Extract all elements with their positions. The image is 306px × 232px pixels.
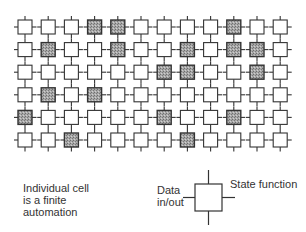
- grid-cell-active: [157, 110, 171, 124]
- grid-cell: [157, 43, 171, 57]
- grid-cell: [134, 65, 148, 79]
- grid-cell: [41, 133, 55, 147]
- grid-cell: [111, 133, 125, 147]
- grid-cell: [204, 133, 218, 147]
- grid-cell: [18, 88, 32, 102]
- grid-cell: [18, 43, 32, 57]
- caption-line-3: automation: [23, 206, 89, 218]
- grid-cell-active: [111, 20, 125, 34]
- grid-cell-active: [41, 88, 55, 102]
- grid-cell: [250, 110, 264, 124]
- grid-cell: [157, 88, 171, 102]
- grid-cell: [250, 88, 264, 102]
- grid-cell: [88, 65, 102, 79]
- grid-cell-active: [41, 43, 55, 57]
- grid-cell: [273, 88, 287, 102]
- label-state-function: State function: [230, 178, 297, 190]
- grid-cell: [204, 88, 218, 102]
- grid-cell: [273, 65, 287, 79]
- grid-cell-active: [250, 43, 264, 57]
- grid-cell: [111, 88, 125, 102]
- grid-connectors: [14, 16, 292, 152]
- grid-cell: [273, 20, 287, 34]
- grid-cell: [64, 43, 78, 57]
- grid-cell: [88, 43, 102, 57]
- grid-cell: [250, 133, 264, 147]
- grid-cell-active: [180, 43, 194, 57]
- grid-cell: [88, 110, 102, 124]
- grid-cell: [18, 133, 32, 147]
- grid-cell-active: [250, 65, 264, 79]
- grid-cell: [41, 65, 55, 79]
- grid-cell: [227, 88, 241, 102]
- grid-cell: [64, 110, 78, 124]
- grid-cell: [64, 88, 78, 102]
- grid-cell: [273, 133, 287, 147]
- grid-cell: [273, 110, 287, 124]
- grid-cell: [227, 65, 241, 79]
- grid-cell-active: [64, 133, 78, 147]
- grid-cell: [180, 110, 194, 124]
- grid-cell: [88, 133, 102, 147]
- grid-cell: [180, 88, 194, 102]
- label-data-line-2: in/out: [157, 196, 184, 208]
- grid-cell: [64, 20, 78, 34]
- grid-cell: [204, 110, 218, 124]
- legend-cell-icon: [183, 170, 235, 225]
- grid-cell: [111, 65, 125, 79]
- caption-line-2: is a finite: [23, 194, 89, 206]
- grid-cell: [227, 133, 241, 147]
- grid-cells: [18, 20, 287, 147]
- grid-cell: [134, 88, 148, 102]
- grid-cell-active: [18, 110, 32, 124]
- grid-cell-active: [227, 20, 241, 34]
- grid-cell: [41, 110, 55, 124]
- grid-cell: [204, 20, 218, 34]
- grid-cell: [134, 20, 148, 34]
- grid-cell: [204, 65, 218, 79]
- grid-cell-active: [111, 43, 125, 57]
- grid-cell-active: [88, 20, 102, 34]
- grid-cell-active: [180, 133, 194, 147]
- grid-cell: [204, 43, 218, 57]
- grid-cell: [180, 20, 194, 34]
- grid-cell-active: [227, 110, 241, 124]
- grid-cell-active: [227, 43, 241, 57]
- caption-individual-cell: Individual cell is a finite automation: [23, 182, 89, 218]
- grid-cell-active: [88, 88, 102, 102]
- grid-cell: [134, 110, 148, 124]
- caption-line-1: Individual cell: [23, 182, 89, 194]
- grid-cell: [64, 65, 78, 79]
- grid-cell: [134, 43, 148, 57]
- grid-cell: [111, 110, 125, 124]
- grid-cell: [273, 43, 287, 57]
- grid-cell: [157, 20, 171, 34]
- grid-cell: [41, 20, 55, 34]
- grid-cell: [18, 65, 32, 79]
- grid-cell: [18, 20, 32, 34]
- grid-cell: [250, 20, 264, 34]
- grid-cell-active: [157, 65, 171, 79]
- grid-cell-active: [180, 65, 194, 79]
- label-data-line-1: Data: [157, 184, 184, 196]
- grid-cell: [157, 133, 171, 147]
- label-data-in-out: Data in/out: [157, 184, 184, 208]
- grid-cell: [134, 133, 148, 147]
